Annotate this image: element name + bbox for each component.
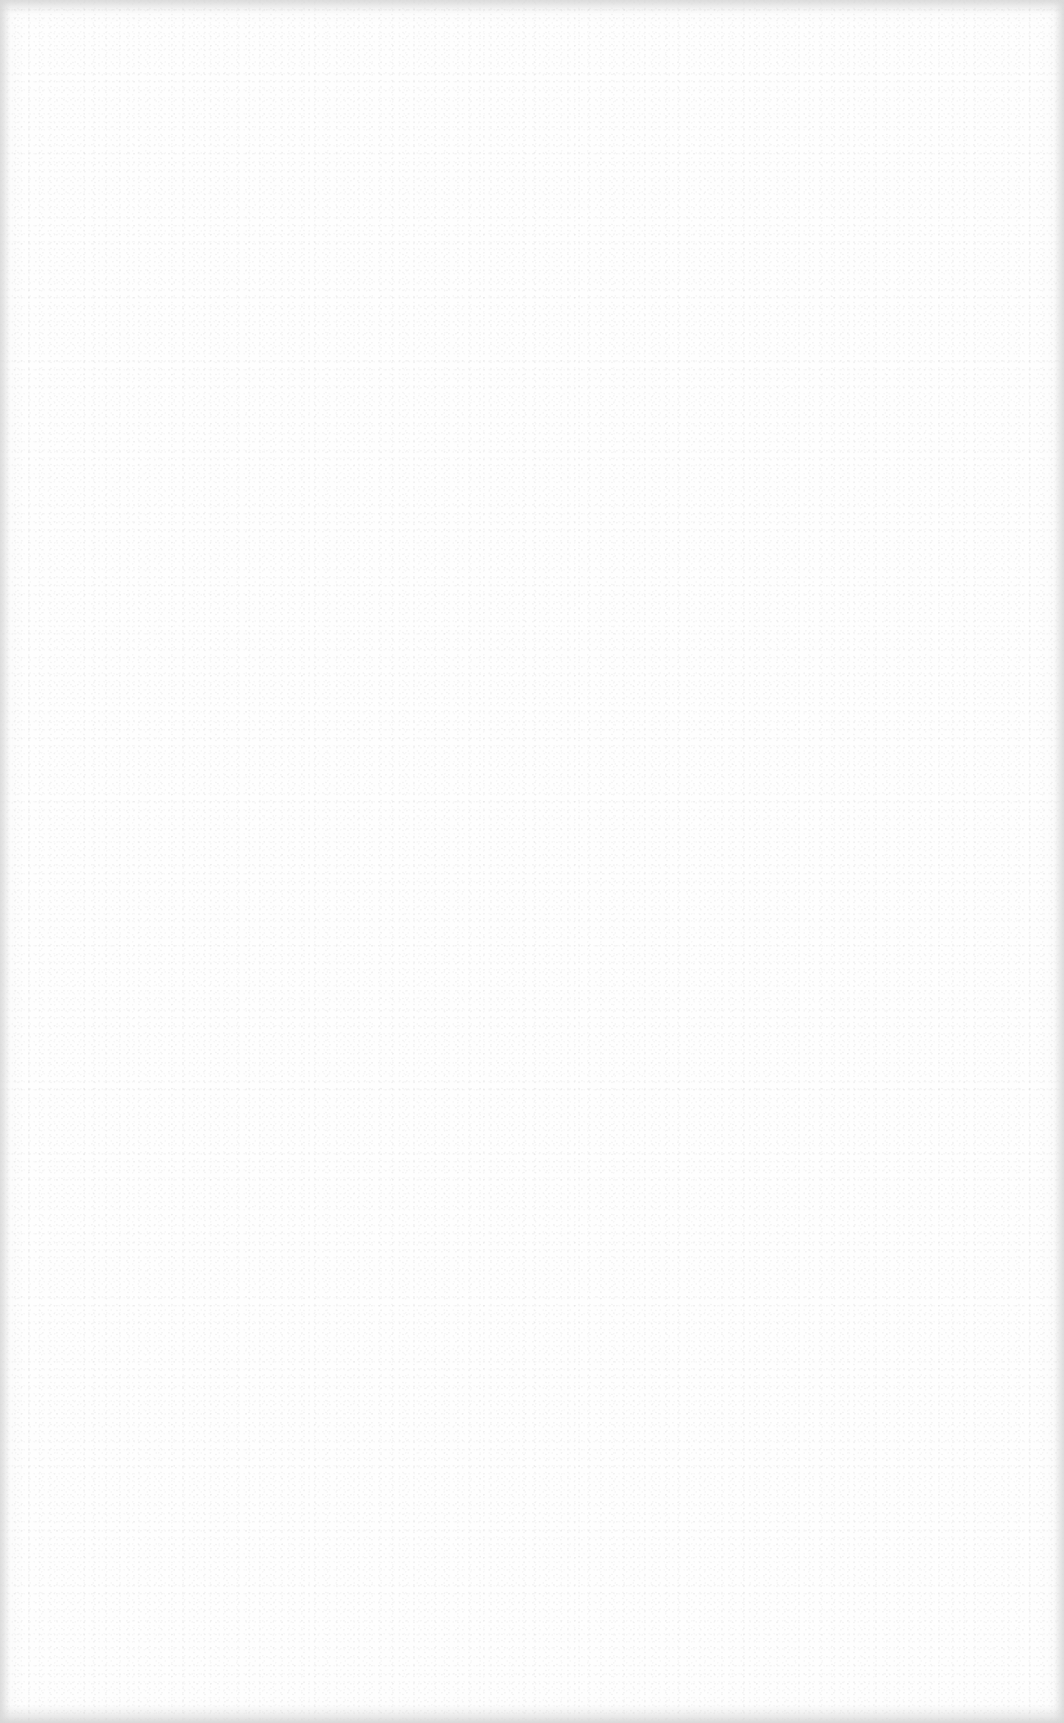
blank-scanned-page <box>0 0 1064 1723</box>
page-edge-right <box>1054 0 1064 1723</box>
page-edge-top <box>0 0 1064 14</box>
page-edge-left <box>0 0 10 1723</box>
page-edge-bottom <box>0 1705 1064 1723</box>
